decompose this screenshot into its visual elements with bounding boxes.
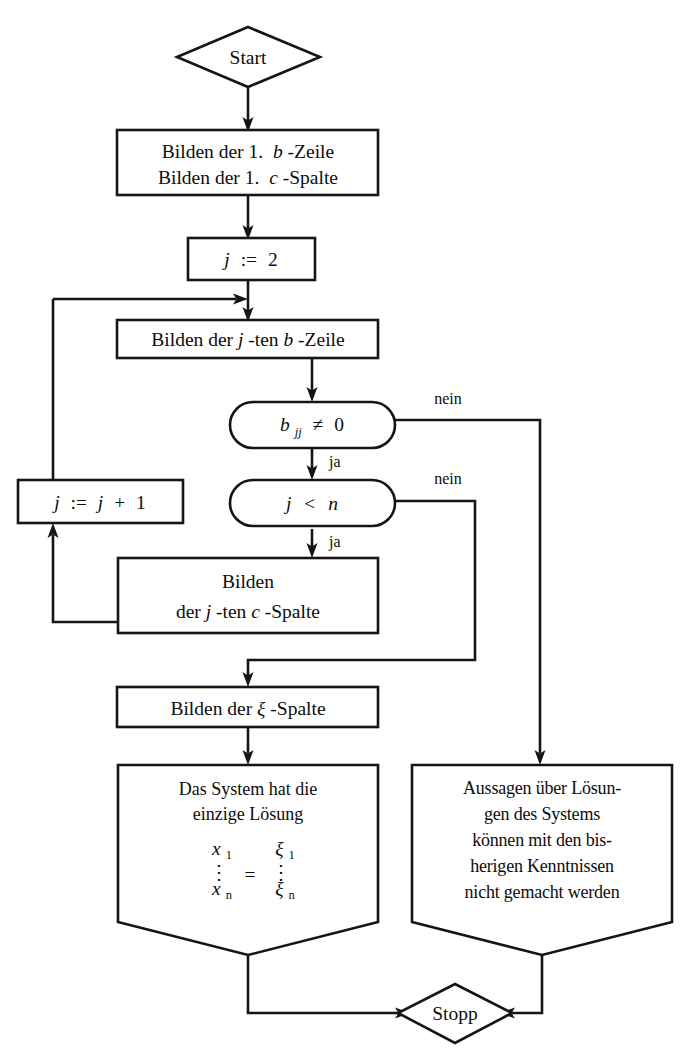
result-ok-line1: Das System hat die [179,779,317,799]
label-jn-yes: ja [328,533,341,551]
matrix-rhs-top-var: ξ [275,838,284,859]
edge-pivot-no [395,420,540,753]
assign-j2-label: j := 2 [221,249,277,270]
label-jn-no: nein [434,470,462,487]
edge-resultok-to-stop [248,955,398,1013]
init-line2-var: c [269,167,278,188]
edge-ccol-to-incr [53,535,118,622]
c-col-line1: Bilden [222,571,274,592]
result-fail-line1: Aussagen über Lösun- [463,778,621,798]
node-decision-pivot[interactable]: b jj ≠ 0 [230,402,395,448]
b-row-tail: -Zeile [298,329,345,350]
c-col-mid: -ten [216,601,251,622]
init-line1-var: b [273,141,283,162]
label-pivot-yes: ja [328,453,341,471]
incr-j-op: := [71,492,87,513]
b-row-mid: -ten [248,329,283,350]
node-xi-col[interactable]: Bilden der ξ -Spalte [117,687,378,727]
init-line2-tail: -Spalte [283,167,338,188]
decision-pivot-var: b [280,414,290,435]
label-pivot-no: nein [434,390,462,407]
node-stop[interactable]: Stopp [398,984,512,1043]
c-col-var2: c [251,601,260,622]
init-line1-tail: -Zeile [288,141,335,162]
result-fail-line3: können mit den bis- [472,830,612,850]
stop-label: Stopp [432,1003,478,1024]
node-start[interactable]: Start [177,27,320,87]
node-decision-jn[interactable]: j < n [230,480,395,526]
decision-jn-label: j < n [283,493,338,514]
init-line1-text: Bilden der 1. [162,141,263,162]
b-row-label: Bilden der j -ten b -Zeile [151,329,344,350]
matrix-rhs-top-sub: 1 [288,848,294,862]
assign-j2-value: 2 [268,249,278,270]
init-line2: Bilden der 1. c -Spalte [158,167,338,188]
c-col-pre: der [176,601,206,622]
result-ok-line2: einzige Lösung [193,804,303,824]
c-col-tail: -Spalte [265,601,320,622]
matrix-rhs-bot-sub: n [288,888,295,902]
decision-jn-var2: n [328,493,338,514]
matrix-lhs-top-var: x [211,838,221,859]
decision-pivot-sub: jj [293,425,302,439]
xi-col-pre: Bilden der [170,698,257,719]
flowchart-canvas: Start Bilden der 1. b -Zeile Bilden der … [0,0,694,1053]
b-row-pre: Bilden der [151,329,238,350]
assign-j2-op: := [241,249,257,270]
node-c-col[interactable]: Bilden der j -ten c -Spalte [118,558,378,633]
edge-resultfail-to-stop [512,955,542,1013]
matrix-equals: = [245,864,256,885]
node-b-row[interactable]: Bilden der j -ten b -Zeile [117,320,378,358]
decision-pivot-value: 0 [334,414,344,435]
matrix-lhs-vdots: ⋮ [209,862,229,883]
node-assign-j2[interactable]: j := 2 [188,238,315,280]
init-line1: Bilden der 1. b -Zeile [162,141,334,162]
xi-col-tail: -Spalte [270,698,325,719]
node-init[interactable]: Bilden der 1. b -Zeile Bilden der 1. c -… [117,130,378,195]
node-result-ok[interactable]: Das System hat die einzige Lösung x 1 x … [118,765,378,955]
matrix-rhs-vdots: ⋮ [271,862,291,883]
result-fail-line5: nicht gemacht werden [465,882,620,902]
node-incr-j[interactable]: j := j + 1 [18,480,183,523]
decision-pivot-rel: ≠ [313,414,324,435]
matrix-lhs-bot-sub: n [226,888,233,902]
xi-col-label: Bilden der ξ -Spalte [170,698,325,719]
init-line2-text: Bilden der 1. [158,167,259,188]
decision-jn-rel: < [304,493,315,514]
matrix-lhs-top-sub: 1 [226,848,232,862]
node-result-fail[interactable]: Aussagen über Lösun- gen des Systems kön… [412,765,672,955]
c-col-line2: der j -ten c -Spalte [176,601,320,622]
start-label: Start [230,47,267,68]
incr-j-value: 1 [136,492,146,513]
result-fail-line2: gen des Systems [484,804,600,824]
incr-j-plus: + [114,492,125,513]
b-row-var2: b [283,329,293,350]
result-fail-line4: herigen Kenntnissen [470,856,614,876]
xi-col-var: ξ [257,698,266,719]
